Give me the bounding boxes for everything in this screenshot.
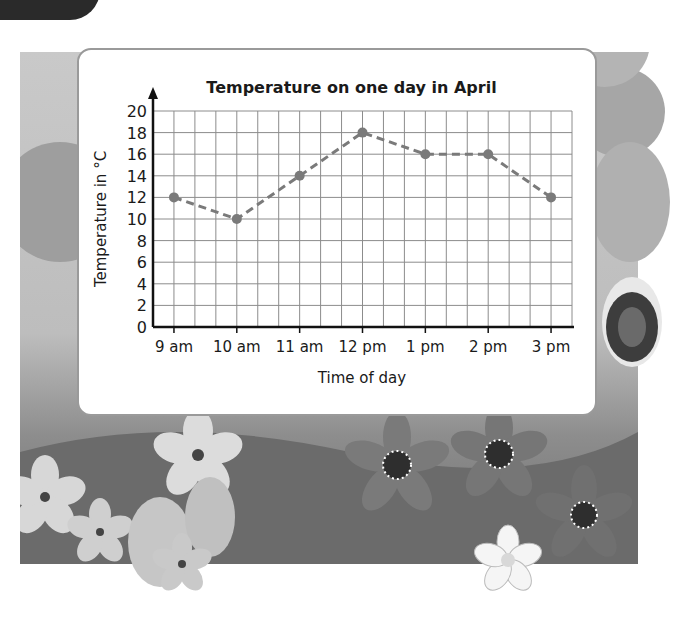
x-tick-label: 3 pm (532, 338, 570, 356)
x-tick-label: 1 pm (406, 338, 444, 356)
y-tick-label: 20 (127, 102, 147, 121)
y-tick-label: 18 (127, 124, 147, 143)
y-tick-label: 2 (137, 296, 147, 315)
y-axis-arrow-icon (148, 87, 158, 99)
y-tick-label: 0 (137, 318, 147, 337)
x-tick-label: 2 pm (469, 338, 507, 356)
y-tick-label: 6 (137, 253, 147, 272)
y-tick-labels: 02468101214161820 (127, 102, 147, 337)
y-tick-label: 12 (127, 188, 147, 207)
x-tick-label: 11 am (276, 338, 324, 356)
x-tick-labels: 9 am10 am11 am12 pm1 pm2 pm3 pm (155, 338, 570, 356)
y-tick-label: 4 (137, 275, 147, 294)
data-point (232, 214, 242, 224)
data-point (169, 192, 179, 202)
data-point (295, 171, 305, 181)
x-axis-label: Time of day (317, 369, 406, 387)
x-tick-label: 10 am (213, 338, 261, 356)
y-tick-label: 14 (127, 167, 147, 186)
y-tick-label: 10 (127, 210, 147, 229)
data-point (546, 192, 556, 202)
data-point (358, 128, 368, 138)
data-point (483, 149, 493, 159)
data-point (420, 149, 430, 159)
x-tick-label: 9 am (155, 338, 193, 356)
y-tick-label: 8 (137, 232, 147, 251)
y-axis-label: Temperature in °C (92, 151, 110, 288)
chart-grid (153, 111, 572, 327)
y-tick-label: 16 (127, 145, 147, 164)
x-tick-label: 12 pm (339, 338, 387, 356)
